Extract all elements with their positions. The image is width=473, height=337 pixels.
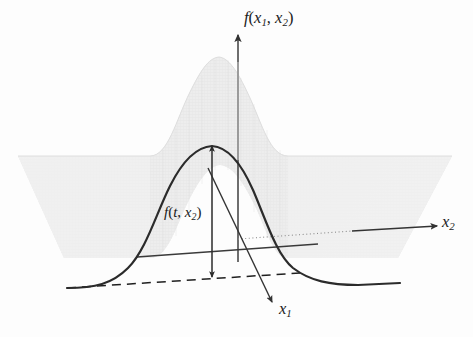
surface-right-wing-shade bbox=[288, 156, 452, 258]
surface-body bbox=[18, 57, 452, 258]
x1-axis-label: x1 bbox=[279, 299, 292, 319]
x2-axis-label: x2 bbox=[442, 212, 455, 232]
x2-axis-label-sub: 2 bbox=[449, 220, 454, 232]
surface-plot-svg bbox=[0, 0, 473, 337]
x1-axis-label-sub: 1 bbox=[286, 307, 291, 319]
cross-section-label-comma: , bbox=[177, 204, 185, 220]
cross-section-label: f(t, x2) bbox=[164, 204, 201, 222]
surface-left-wing-shade bbox=[18, 156, 150, 258]
figure-container: f(x1, x2) x2 x1 f(t, x2) bbox=[0, 0, 473, 337]
vertical-axis-label: f(x1, x2) bbox=[244, 8, 293, 28]
cross-section-label-arg2: x bbox=[185, 204, 192, 220]
vertical-axis-label-close: ) bbox=[288, 8, 294, 27]
cross-section-label-close: ) bbox=[196, 204, 201, 220]
baseline-dashed bbox=[67, 273, 300, 288]
vertical-axis-label-comma: , bbox=[267, 8, 275, 27]
